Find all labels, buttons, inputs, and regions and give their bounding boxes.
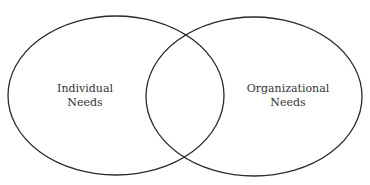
individual-needs-line2: Needs	[35, 96, 135, 110]
individual-needs-line1: Individual	[35, 82, 135, 96]
individual-needs-label: Individual Needs	[35, 82, 135, 110]
organizational-needs-label: Organizational Needs	[238, 82, 338, 110]
organizational-needs-line2: Needs	[238, 96, 338, 110]
organizational-needs-line1: Organizational	[238, 82, 338, 96]
